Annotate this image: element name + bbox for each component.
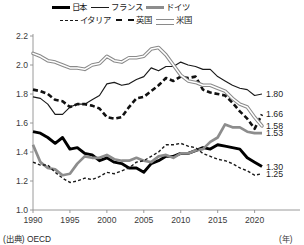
chart-series-group: [33, 48, 262, 183]
legend-row-2: イタリア英国米国: [52, 14, 262, 27]
legend-swatch-icon-ドイツ: [146, 3, 164, 12]
series-line-united-kingdom: [33, 77, 262, 129]
series-line-japan: [33, 132, 262, 173]
legend-swatch-icon-英国: [116, 16, 134, 25]
legend-entry-ドイツ[interactable]: ドイツ: [146, 3, 189, 12]
chart-plot-area: [0, 0, 304, 245]
legend-label: ドイツ: [166, 3, 190, 11]
legend-entry-米国[interactable]: 米国: [156, 16, 191, 25]
legend-label: フランス: [111, 3, 143, 11]
y-tick-label: 1.4: [8, 147, 28, 157]
series-line-united-states-outer: [33, 48, 262, 126]
legend-label: 米国: [176, 16, 192, 24]
source-note: (出典) OECD: [3, 232, 51, 244]
fertility-rate-line-chart: 日本フランスドイツイタリア英国米国 2.22.01.81.61.41.21.0 …: [0, 0, 304, 245]
chart-legend: 日本フランスドイツイタリア英国米国: [52, 1, 262, 27]
y-tick-label: 1.0: [8, 205, 28, 215]
legend-entry-フランス[interactable]: フランス: [91, 3, 142, 12]
series-line-united-states-inner: [33, 48, 262, 126]
legend-swatch-icon-イタリア: [60, 16, 78, 25]
y-tick-label: 2.0: [8, 60, 28, 70]
legend-entry-イタリア[interactable]: イタリア: [60, 16, 111, 25]
end-value-label-united-kingdom: 1.66: [266, 109, 283, 119]
x-tick-label: 2000: [92, 215, 122, 225]
y-tick-label: 1.6: [8, 118, 28, 128]
series-line-italy: [33, 143, 262, 182]
x-tick-label: 1995: [55, 215, 85, 225]
end-value-label-france: 1.80: [266, 89, 283, 99]
legend-swatch-icon-日本: [52, 3, 70, 12]
legend-row-1: 日本フランスドイツ: [52, 1, 262, 14]
legend-swatch-icon-フランス: [91, 3, 109, 12]
end-value-label-united-states: 1.58: [266, 121, 283, 131]
end-value-label-italy: 1.25: [266, 169, 283, 179]
x-tick-label: 1990: [18, 215, 48, 225]
y-tick-label: 2.2: [8, 31, 28, 41]
x-tick-label: 2010: [166, 215, 196, 225]
legend-entry-英国[interactable]: 英国: [116, 16, 151, 25]
legend-label: 日本: [72, 3, 88, 11]
y-tick-label: 1.2: [8, 176, 28, 186]
x-tick-label: 2015: [203, 215, 233, 225]
x-tick-label: 2020: [240, 215, 270, 225]
legend-entry-日本[interactable]: 日本: [52, 3, 87, 12]
legend-label: 英国: [136, 16, 152, 24]
legend-swatch-icon-米国: [156, 16, 174, 25]
x-tick-label: 2005: [129, 215, 159, 225]
legend-label: イタリア: [80, 16, 112, 24]
y-tick-label: 1.8: [8, 89, 28, 99]
x-axis-unit-note: (年): [279, 232, 292, 244]
